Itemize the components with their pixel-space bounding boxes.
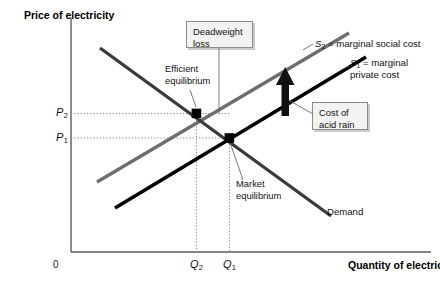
y-tick-p1-symbol: P — [56, 131, 63, 143]
deadweight-loss-callout-text: Deadweight loss — [187, 22, 252, 54]
efficient-equilibrium-label: Efficient equilibrium — [165, 63, 210, 87]
market-equilibrium-marker — [225, 133, 235, 143]
leader-supply-social-label — [303, 44, 313, 50]
guide-lines — [71, 114, 230, 253]
y-axis-title: Price of electricity — [24, 9, 106, 22]
x-tick-q1-symbol: Q — [223, 258, 232, 270]
x-tick-q2-symbol: Q — [190, 258, 199, 270]
y-tick-label-p2: P2 — [56, 106, 68, 119]
externality-deadweight-loss-figure: Price of electricity Quantity of electri… — [0, 0, 440, 299]
supply-social-curve-label: S2 = marginal social cost — [315, 38, 421, 50]
market-equilibrium-label: Market equilibrium — [236, 178, 281, 202]
supply-social-subscript: 2 — [321, 43, 325, 50]
deadweight-loss-callout: Deadweight loss — [186, 21, 253, 48]
x-tick-label-q2: Q2 — [190, 258, 203, 271]
cost-of-acid-rain-callout: Cost of acid rain — [312, 102, 368, 130]
x-tick-label-q1: Q1 — [223, 258, 236, 271]
demand-curve — [100, 48, 331, 216]
supply-private-subscript: 1 — [356, 62, 360, 69]
x-tick-q2-subscript: 2 — [199, 263, 203, 272]
leader-efficient-equilibrium — [190, 90, 196, 107]
x-tick-q1-subscript: 1 — [232, 263, 236, 272]
y-tick-p2-symbol: P — [56, 106, 63, 118]
demand-curve-label: Demand — [327, 206, 363, 218]
supply-social-label-text: = marginal social cost — [325, 38, 420, 49]
y-tick-p2-subscript: 2 — [64, 111, 68, 120]
y-tick-p1-subscript: 1 — [64, 136, 68, 145]
x-axis-title: Quantity of electricity — [348, 259, 434, 272]
efficient-equilibrium-marker — [192, 109, 202, 119]
supply-private-curve-label: S1 = marginal private cost — [350, 57, 408, 81]
y-tick-label-p1: P1 — [56, 131, 68, 144]
cost-of-acid-rain-callout-text: Cost of acid rain — [313, 103, 367, 135]
origin-label: 0 — [53, 259, 59, 271]
